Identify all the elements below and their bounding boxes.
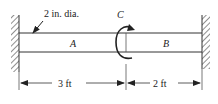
diameter-leader <box>33 21 43 33</box>
segment-a-label: A <box>69 38 77 49</box>
diameter-label: 2 in. dia. <box>44 8 79 19</box>
right-fixed-support <box>202 15 210 69</box>
dimension-2ft-label: 2 ft <box>153 78 167 89</box>
torque-label: C <box>117 9 124 20</box>
shaft-diagram: 2 in. dia. A B C 3 ft 2 ft <box>0 0 218 104</box>
left-fixed-support <box>11 15 19 72</box>
dimension-3ft-label: 3 ft <box>58 78 72 89</box>
shaft <box>19 33 202 52</box>
dimension-extension-lines <box>19 64 202 90</box>
torque-arrow-icon <box>116 24 135 58</box>
segment-b-label: B <box>163 38 169 49</box>
